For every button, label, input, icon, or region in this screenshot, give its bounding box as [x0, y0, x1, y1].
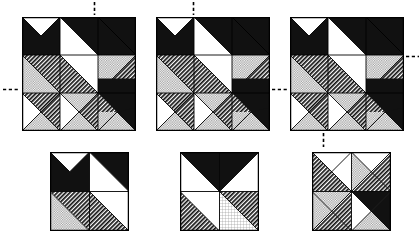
marker-3-glyph	[192, 2, 195, 15]
marker-2-glyph	[3, 88, 19, 91]
marker-6-glyph	[322, 133, 325, 147]
alignment-marker-horizontal-right-upper	[406, 55, 419, 58]
alignment-marker-horizontal-right-center	[272, 88, 288, 91]
alignment-marker-vertical-top-center	[192, 2, 195, 15]
marker-1-glyph	[93, 2, 96, 15]
alignment-marker-horizontal-left	[3, 88, 19, 91]
quilt-block-bottom-right-svg	[312, 152, 391, 231]
quilt-block-bottom-center[interactable]	[180, 152, 259, 231]
figure-canvas	[0, 0, 419, 246]
quilt-block-bottom-left-svg	[50, 152, 129, 231]
alignment-marker-vertical-top-left	[93, 2, 96, 15]
marker-5-glyph	[406, 55, 419, 58]
quilt-block-top-right-svg	[290, 17, 404, 131]
quilt-block-top-left-svg	[22, 17, 136, 131]
quilt-block-bottom-center-svg	[180, 152, 259, 231]
alignment-marker-vertical-bottom-right	[322, 133, 325, 147]
quilt-block-top-left[interactable]	[22, 17, 136, 131]
quilt-block-top-center-svg	[156, 17, 270, 131]
quilt-block-top-center[interactable]	[156, 17, 270, 131]
marker-4-glyph	[272, 88, 288, 91]
quilt-block-top-right[interactable]	[290, 17, 404, 131]
quilt-block-bottom-left[interactable]	[50, 152, 129, 231]
quilt-block-bottom-right[interactable]	[312, 152, 391, 231]
